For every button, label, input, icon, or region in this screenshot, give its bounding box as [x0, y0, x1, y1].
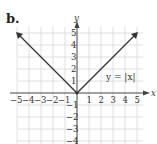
svg-text:1: 1	[71, 76, 76, 86]
x-axis-label: x	[151, 88, 156, 98]
grid	[17, 27, 143, 144]
svg-text:4: 4	[123, 95, 128, 105]
svg-text:−3: −3	[66, 124, 79, 134]
svg-text:−4: −4	[22, 95, 35, 105]
svg-text:−3: −3	[34, 95, 47, 105]
svg-text:−2: −2	[66, 112, 79, 122]
svg-text:−2: −2	[46, 95, 59, 105]
svg-text:3: 3	[111, 95, 116, 105]
y-axis-label: y	[73, 13, 79, 23]
graph: x y −5 −4 −3 −2 −1 1 2 3 4 5 5 4 3 2 1 −…	[0, 0, 157, 144]
x-axis-arrow-icon	[143, 91, 150, 96]
svg-text:2: 2	[71, 64, 76, 74]
svg-text:1: 1	[87, 95, 92, 105]
svg-text:−1: −1	[66, 100, 79, 110]
svg-text:2: 2	[99, 95, 104, 105]
equation-label: y = |x|	[105, 72, 136, 83]
svg-text:4: 4	[71, 40, 76, 50]
origin-point	[75, 91, 78, 94]
svg-text:−4: −4	[66, 136, 79, 144]
svg-text:5: 5	[71, 28, 76, 38]
svg-text:−5: −5	[10, 95, 23, 105]
svg-text:5: 5	[135, 95, 140, 105]
svg-text:3: 3	[71, 52, 76, 62]
